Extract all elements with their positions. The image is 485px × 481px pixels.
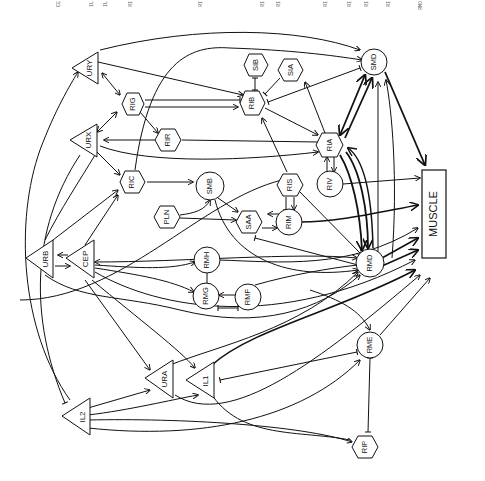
svg-text:SMD: SMD <box>369 53 378 70</box>
svg-text:RIC: RIC <box>127 175 136 189</box>
node-SIA: SIA <box>278 59 303 81</box>
node-RMG: RMG <box>193 283 219 309</box>
svg-text:RMD: RMD <box>365 254 374 272</box>
svg-text:URX: URX <box>84 131 93 149</box>
svg-text:URB: URB <box>41 251 50 268</box>
edges <box>20 32 430 442</box>
svg-text:RMG: RMG <box>201 287 210 305</box>
svg-text:PLN: PLN <box>162 210 171 225</box>
svg-text:RIS: RIS <box>285 179 294 192</box>
svg-text:SAA: SAA <box>244 214 253 229</box>
node-RIP: RIP <box>352 436 378 458</box>
svg-text:RIG: RIG <box>128 97 137 111</box>
node-CEP: CEP <box>66 240 94 278</box>
svg-text:RIB: RIB <box>247 97 256 110</box>
node-RIM: RIM <box>276 209 302 235</box>
node-RME: RME <box>357 332 383 358</box>
node-RMH: RMH <box>194 247 220 273</box>
svg-text:RIM: RIM <box>284 215 293 229</box>
node-RIR: RIR <box>155 129 181 151</box>
node-URA: URA <box>145 360 173 398</box>
svg-text:RME: RME <box>365 337 374 354</box>
svg-text:SMB: SMB <box>205 178 214 194</box>
svg-text:RIA: RIA <box>325 139 334 152</box>
svg-text:RIP: RIP <box>360 441 369 454</box>
node-RIB: RIB <box>240 91 265 115</box>
node-URB: URB <box>26 240 53 278</box>
node-SMB: SMB <box>196 172 224 200</box>
node-IL1: IL1 <box>186 362 214 398</box>
node-RIA: RIA <box>316 133 343 157</box>
node-RIG: RIG <box>122 93 144 115</box>
node-RIS: RIS <box>277 174 303 196</box>
svg-text:URA: URA <box>160 370 169 388</box>
node-SIB: SIB <box>244 54 268 76</box>
svg-text:IL1: IL1 <box>201 375 210 387</box>
svg-text:SIA: SIA <box>286 64 295 76</box>
svg-text:URY: URY <box>85 59 94 76</box>
svg-text:SIB: SIB <box>251 59 260 71</box>
node-SMD: SMD <box>361 49 387 75</box>
node-URX: URX <box>70 124 97 157</box>
node-RMD: RMD <box>356 249 384 277</box>
node-URY: URY <box>72 52 98 84</box>
node-SAA: SAA <box>236 211 262 233</box>
node-PLN: PLN <box>154 206 180 228</box>
node-IL2: IL2 <box>62 398 90 435</box>
muscle-label: MUSCLE <box>427 191 439 237</box>
muscle-box: MUSCLE <box>422 170 446 258</box>
circuit-diagram: MUSCLE URY URX URB CEP URA IL1 IL2 RIG R… <box>0 0 485 481</box>
svg-text:RIV: RIV <box>325 178 334 191</box>
node-RIV: RIV <box>317 171 343 197</box>
svg-text:RMF: RMF <box>243 288 252 305</box>
svg-text:CEP: CEP <box>81 251 90 267</box>
svg-text:IL2: IL2 <box>78 411 87 423</box>
svg-text:RMH: RMH <box>202 251 211 268</box>
svg-text:RIR: RIR <box>163 133 172 147</box>
node-RIC: RIC <box>120 171 145 193</box>
node-RMF: RMF <box>235 284 261 310</box>
